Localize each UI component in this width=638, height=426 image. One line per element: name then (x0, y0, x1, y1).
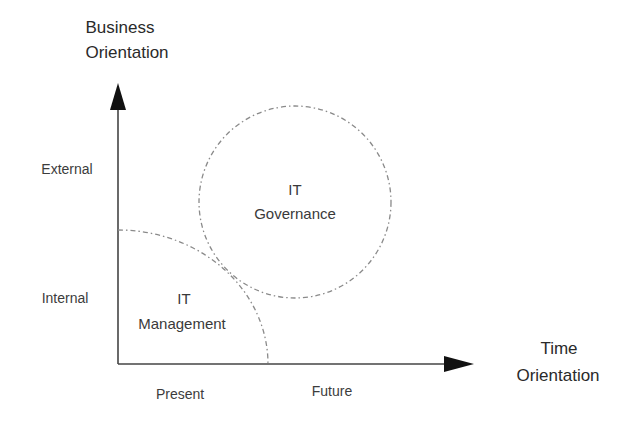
diagram-canvas: Business Orientation Time Orientation Ex… (0, 0, 638, 426)
y-level-external: External (41, 161, 92, 177)
y-axis-title-line1: Business (86, 18, 155, 37)
y-axis-arrowhead (110, 83, 126, 110)
y-axis-title-line2: Orientation (85, 43, 168, 62)
it-management-label-line2: Management (138, 315, 226, 332)
x-level-future: Future (312, 383, 353, 399)
y-level-internal: Internal (42, 290, 89, 306)
x-axis-title-line2: Orientation (516, 366, 599, 385)
it-governance-label-line2: Governance (254, 205, 336, 222)
x-axis-arrowhead (444, 356, 474, 372)
it-governance-boundary (199, 106, 391, 298)
x-level-present: Present (156, 386, 204, 402)
it-governance-label-line1: IT (288, 181, 301, 198)
it-management-boundary (118, 230, 268, 364)
x-axis-title-line1: Time (540, 339, 577, 358)
it-management-label-line1: IT (177, 290, 190, 307)
